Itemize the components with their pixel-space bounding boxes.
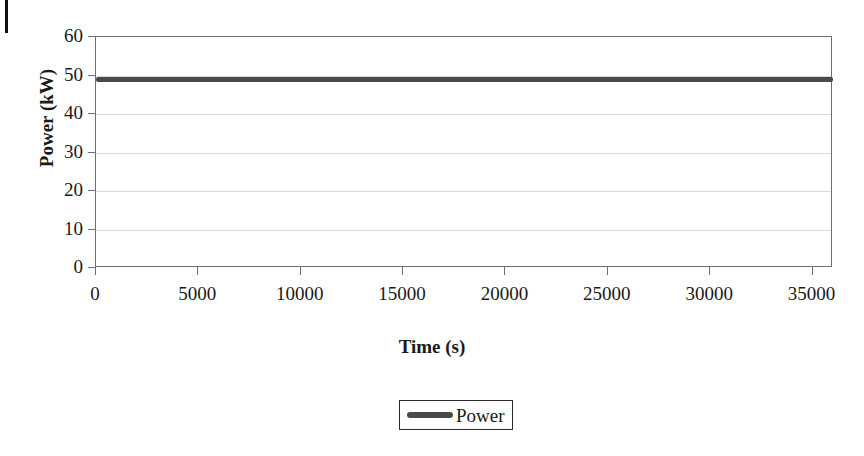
- y-axis-title: Power (kW): [36, 28, 58, 208]
- x-axis-tick-label: 10000: [276, 283, 324, 305]
- legend-entry: Power: [407, 406, 505, 425]
- x-axis-tick-label: 20000: [481, 283, 529, 305]
- y-axis-tick: [88, 75, 95, 76]
- gridline: [96, 114, 831, 115]
- x-axis-tick: [300, 267, 301, 275]
- chart-legend: Power: [399, 400, 513, 430]
- x-axis-tick: [402, 267, 403, 275]
- x-axis-tick-label: 35000: [788, 283, 836, 305]
- x-axis-tick-label: 30000: [685, 283, 733, 305]
- y-axis-tick: [88, 152, 95, 153]
- x-axis: 05000100001500020000250003000035000: [0, 267, 864, 327]
- x-axis-tick-label: 25000: [583, 283, 631, 305]
- x-axis-tick-label: 5000: [178, 283, 216, 305]
- legend-label: Power: [456, 406, 505, 425]
- x-axis-tick: [812, 267, 813, 275]
- x-axis-tick-label: 15000: [378, 283, 426, 305]
- data-series-power: [96, 77, 833, 82]
- x-axis-tick: [607, 267, 608, 275]
- y-axis-tick: [88, 36, 95, 37]
- gridline: [96, 230, 831, 231]
- y-axis-tick-label: 60: [64, 26, 83, 45]
- y-axis-tick-label: 30: [64, 142, 83, 161]
- x-axis-tick-label: 0: [90, 283, 100, 305]
- y-axis-tick: [88, 229, 95, 230]
- legend-line-swatch-icon: [407, 412, 453, 418]
- x-axis-tick: [709, 267, 710, 275]
- y-axis-tick-label: 10: [64, 219, 83, 238]
- y-axis-tick: [88, 190, 95, 191]
- y-axis-tick-label: 20: [64, 180, 83, 199]
- x-axis-tick: [197, 267, 198, 275]
- x-axis-title: Time (s): [0, 336, 864, 358]
- y-axis-tick: [88, 113, 95, 114]
- y-axis-tick-label: 40: [64, 103, 83, 122]
- plot-area: [95, 36, 832, 267]
- x-axis-tick: [95, 267, 96, 275]
- y-axis-tick-label: 50: [64, 65, 83, 84]
- power-vs-time-chart: 0102030405060 Power (kW) 050001000015000…: [0, 0, 864, 456]
- gridline: [96, 191, 831, 192]
- x-axis-tick: [504, 267, 505, 275]
- gridline: [96, 153, 831, 154]
